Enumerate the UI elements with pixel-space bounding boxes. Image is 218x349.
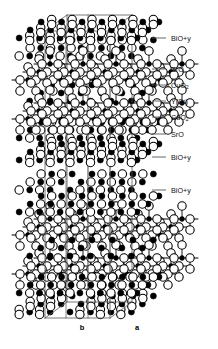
atom-dark	[27, 201, 33, 207]
atom-light	[68, 192, 76, 200]
atom-light	[88, 20, 96, 28]
atom-light	[186, 215, 194, 223]
atom-dark	[128, 253, 134, 259]
atom-light	[108, 20, 116, 28]
atom-light	[129, 192, 137, 200]
atom-light	[117, 186, 125, 194]
atom-light	[86, 36, 94, 44]
atom-light	[66, 208, 74, 216]
atom-light	[46, 47, 54, 55]
atom-light	[48, 192, 56, 200]
atom-dark	[59, 274, 65, 280]
atom-light	[118, 200, 126, 208]
atom-dark	[16, 135, 22, 141]
atom-light	[137, 71, 145, 79]
atom-light	[37, 170, 45, 178]
atom-dark	[68, 201, 74, 207]
atom-light	[38, 110, 46, 118]
atom-dark	[147, 101, 152, 106]
atom-dark	[57, 135, 63, 141]
atom-light	[26, 178, 34, 186]
atom-dark	[140, 274, 146, 280]
atom-dark	[16, 209, 22, 215]
atom-light	[186, 226, 194, 234]
atom-light	[104, 226, 112, 234]
atom-light	[137, 226, 145, 234]
structure-svg: BiO+ySrOCuO2Y(Sr)CuO2SrOBiO+yBiO+y ba	[0, 0, 218, 349]
atom-light	[16, 76, 24, 84]
atom-dark	[78, 245, 84, 251]
atom-light	[77, 150, 85, 158]
atom-light	[37, 281, 45, 289]
atom-light	[37, 28, 45, 36]
atom-light	[71, 71, 79, 79]
atom-light	[77, 200, 85, 208]
atom-dark	[140, 19, 146, 25]
atom-light	[138, 28, 146, 36]
atom-light	[26, 134, 34, 142]
atom-dark	[89, 171, 95, 177]
atom-light	[27, 262, 35, 270]
atom-light	[48, 273, 56, 281]
crystal-structure-figure: BiO+ySrOCuO2Y(Sr)CuO2SrOBiO+yBiO+y ba	[0, 0, 218, 349]
atom-light	[107, 158, 115, 166]
atom-light	[98, 170, 106, 178]
atom-light	[129, 273, 137, 281]
atom-dark	[119, 193, 125, 199]
atom-dark	[81, 256, 86, 261]
atom-light	[186, 265, 194, 273]
atom-light	[54, 99, 62, 107]
atom-light	[57, 28, 65, 36]
atom-light	[87, 99, 95, 107]
atom-dark	[119, 141, 125, 147]
atom-light	[77, 28, 85, 36]
atom-light	[15, 186, 23, 194]
atom-dark	[58, 179, 64, 185]
atom-light	[170, 265, 178, 273]
atom-light	[32, 126, 40, 134]
atom-light	[35, 310, 43, 318]
atom-light	[137, 254, 145, 262]
atom-light	[104, 71, 112, 79]
atom-dark	[180, 256, 185, 261]
atom-dark	[59, 141, 65, 147]
atom-light	[16, 126, 24, 134]
atom-light	[71, 265, 79, 273]
atom-dark	[38, 245, 44, 251]
atom-light	[86, 208, 94, 216]
atom-light	[178, 47, 186, 55]
atom-light	[137, 215, 145, 223]
atom-light	[79, 47, 87, 55]
atom-light	[104, 110, 112, 118]
atom-light	[16, 281, 24, 289]
atom-dark	[47, 253, 53, 259]
atom-light	[46, 178, 54, 186]
atom-dark	[87, 253, 93, 259]
atom-dark	[118, 290, 124, 296]
atom-light	[145, 47, 153, 55]
atom-light	[54, 265, 62, 273]
atom-light	[57, 150, 65, 158]
atom-dark	[49, 171, 55, 177]
atom-light	[118, 150, 126, 158]
atom-light	[153, 254, 161, 262]
atom-dark	[118, 135, 124, 141]
atom-light	[56, 52, 64, 60]
atom-light	[107, 302, 115, 310]
atom-light	[149, 273, 157, 281]
atom-dark	[38, 19, 44, 25]
atom-light	[82, 126, 90, 134]
atom-dark	[130, 171, 136, 177]
atom-dark	[48, 62, 53, 67]
atom-dark	[114, 62, 119, 67]
atom-light	[49, 126, 57, 134]
atom-dark	[16, 290, 22, 296]
atom-dark	[59, 193, 65, 199]
legend-label-3: Y(Sr)	[171, 96, 188, 105]
atom-light	[27, 79, 35, 87]
atom-light	[88, 142, 96, 150]
atom-dark	[114, 217, 119, 222]
atom-light	[26, 208, 34, 216]
atom-light	[46, 302, 54, 310]
atom-dark	[27, 282, 33, 288]
